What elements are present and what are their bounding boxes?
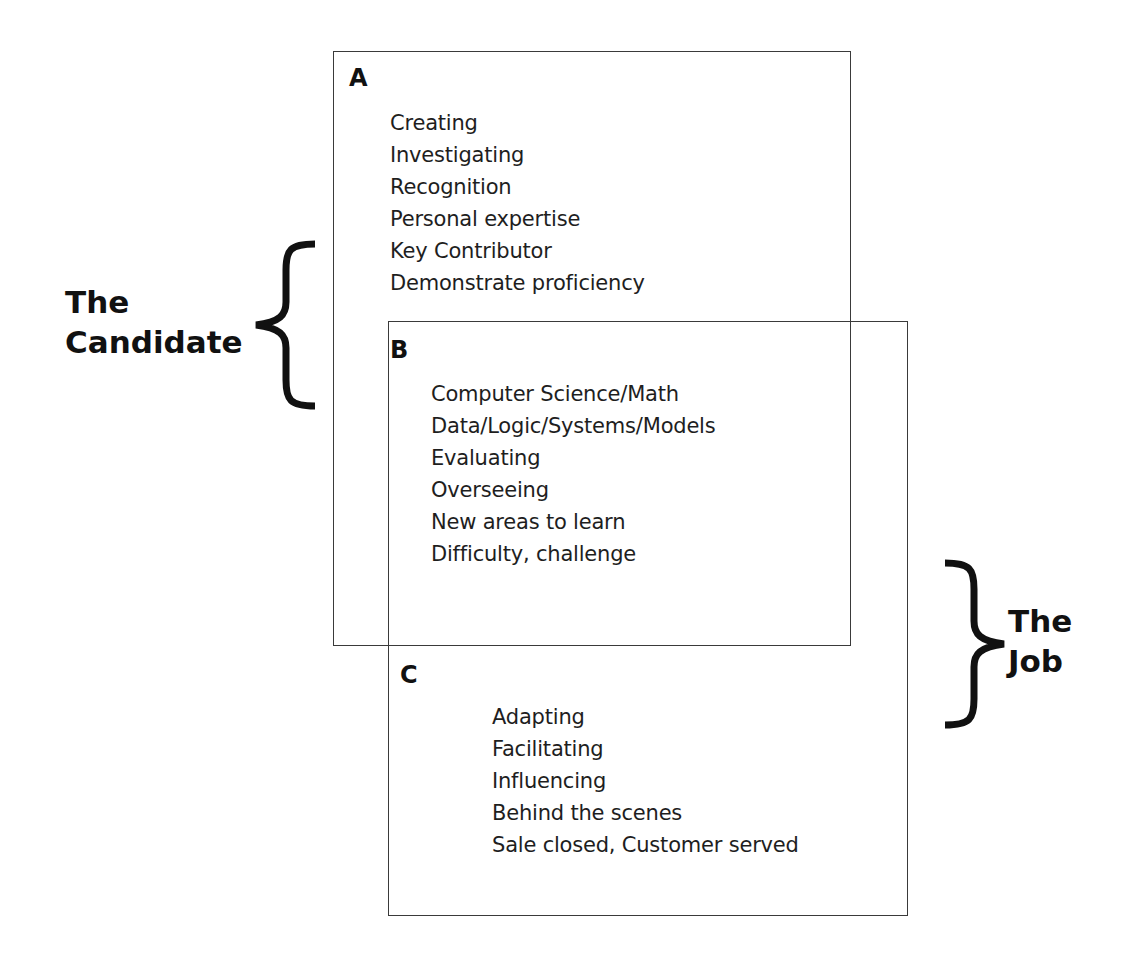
section-b-list: Computer Science/Math Data/Logic/Systems… [431,378,716,570]
list-item: Key Contributor [390,235,645,267]
section-b-letter: B [390,338,408,362]
candidate-label-line1: The [65,282,243,322]
section-c-list: Adapting Facilitating Influencing Behind… [492,701,799,861]
list-item: Facilitating [492,733,799,765]
job-label-line1: The [1008,601,1072,641]
right-brace-icon [940,559,1010,729]
candidate-label: The Candidate [65,282,243,362]
list-item: Investigating [390,139,645,171]
list-item: Difficulty, challenge [431,538,716,570]
candidate-label-line2: Candidate [65,322,243,362]
list-item: Overseeing [431,474,716,506]
list-item: New areas to learn [431,506,716,538]
left-brace-icon [250,240,320,410]
list-item: Personal expertise [390,203,645,235]
section-a-letter: A [349,66,368,90]
job-label-line2: Job [1008,641,1072,681]
list-item: Creating [390,107,645,139]
list-item: Behind the scenes [492,797,799,829]
list-item: Recognition [390,171,645,203]
list-item: Influencing [492,765,799,797]
list-item: Adapting [492,701,799,733]
list-item: Sale closed, Customer served [492,829,799,861]
list-item: Demonstrate proficiency [390,267,645,299]
section-c-letter: C [400,663,418,687]
section-a-list: Creating Investigating Recognition Perso… [390,107,645,299]
job-label: The Job [1008,601,1072,681]
list-item: Computer Science/Math [431,378,716,410]
list-item: Data/Logic/Systems/Models [431,410,716,442]
list-item: Evaluating [431,442,716,474]
